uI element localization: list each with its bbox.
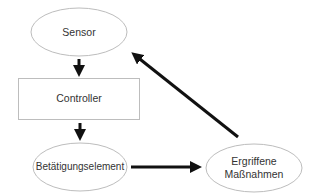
arrow-actions-to-sensor xyxy=(136,56,238,137)
controller-label: Controller xyxy=(18,92,140,105)
sensor-label: Sensor xyxy=(31,26,127,39)
actuator-label: Betätigungselement xyxy=(30,160,130,173)
actions-label-line1: Ergriffene xyxy=(206,155,302,168)
actions-label-line2: Maßnahmen xyxy=(206,168,302,181)
